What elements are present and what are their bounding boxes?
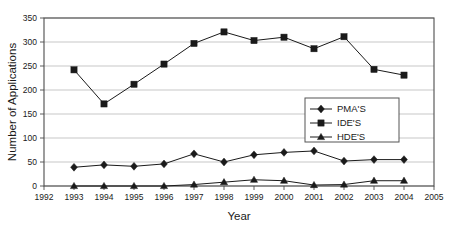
xtick-label-2001: 2001 <box>305 192 324 202</box>
ytick-label-200: 200 <box>23 85 37 95</box>
xtick-label-2003: 2003 <box>365 192 384 202</box>
xtick-label-2000: 2000 <box>275 192 294 202</box>
xtick-label-2005: 2005 <box>425 192 444 202</box>
series-pma-s <box>71 147 408 171</box>
chart-legend[interactable]: PMA'SIDE'SHDE'S <box>305 98 399 142</box>
data-point-0-3 <box>161 160 168 168</box>
data-point-1-9 <box>341 34 347 40</box>
ytick-label-300: 300 <box>23 37 37 47</box>
ytick-label-150: 150 <box>23 109 37 119</box>
ytick-label-250: 250 <box>23 61 37 71</box>
data-point-1-3 <box>161 61 167 67</box>
data-point-2-6 <box>250 176 257 182</box>
data-point-0-5 <box>221 158 228 166</box>
data-point-1-6 <box>251 37 257 43</box>
xtick-label-2004: 2004 <box>395 192 414 202</box>
data-point-1-5 <box>221 29 227 35</box>
series-hde-s <box>70 176 407 188</box>
xtick-label-1992: 1992 <box>35 192 54 202</box>
xtick-label-1999: 1999 <box>245 192 264 202</box>
data-point-0-7 <box>281 149 288 157</box>
data-point-0-4 <box>191 150 198 158</box>
ytick-label-0: 0 <box>32 181 37 191</box>
data-point-1-2 <box>131 81 137 87</box>
x-axis-ticks: 1992199319941995199619971998199920002001… <box>35 186 444 202</box>
series-line-0 <box>74 151 404 167</box>
data-point-1-7 <box>281 34 287 40</box>
data-point-0-9 <box>341 157 348 165</box>
y-axis-title: Number of Applications <box>6 43 18 162</box>
xtick-label-1998: 1998 <box>215 192 234 202</box>
series-line-2 <box>74 180 404 186</box>
legend-label-2[interactable]: HDE'S <box>337 131 365 142</box>
data-point-1-0 <box>71 67 77 73</box>
xtick-label-2002: 2002 <box>335 192 354 202</box>
data-point-1-4 <box>191 40 197 46</box>
data-point-1-11 <box>401 72 407 78</box>
data-point-0-0 <box>71 163 78 171</box>
ytick-label-50: 50 <box>28 157 38 167</box>
data-point-0-8 <box>311 147 318 155</box>
ytick-label-100: 100 <box>23 133 37 143</box>
xtick-label-1996: 1996 <box>155 192 174 202</box>
legend-marker-square <box>318 120 324 126</box>
data-point-0-2 <box>131 162 138 170</box>
xtick-label-1995: 1995 <box>125 192 144 202</box>
data-point-1-10 <box>371 66 377 72</box>
xtick-label-1994: 1994 <box>95 192 114 202</box>
line-chart: 0501001502002503003501992199319941995199… <box>0 0 459 239</box>
series-line-1 <box>74 32 404 104</box>
data-point-1-1 <box>101 101 107 107</box>
legend-label-0[interactable]: PMA'S <box>337 103 366 114</box>
ytick-label-350: 350 <box>23 13 37 23</box>
data-point-0-6 <box>251 151 258 159</box>
xtick-label-1997: 1997 <box>185 192 204 202</box>
chart-figure: 0501001502002503003501992199319941995199… <box>0 0 459 239</box>
xtick-label-1993: 1993 <box>65 192 84 202</box>
series-ide-s <box>71 29 407 107</box>
x-axis-title: Year <box>227 210 250 222</box>
caption-ghost <box>0 225 459 239</box>
data-point-1-8 <box>311 46 317 52</box>
legend-label-1[interactable]: IDE'S <box>337 117 361 128</box>
